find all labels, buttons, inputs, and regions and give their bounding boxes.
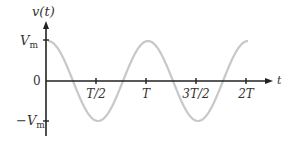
chart-canvas: v(t) Vm 0 −Vm T/2 T 3T/2 2T t xyxy=(0,0,286,142)
zero-label: 0 xyxy=(33,74,41,88)
x-tick-label-T: T xyxy=(142,87,151,101)
y-axis-label: v(t) xyxy=(32,4,55,19)
y-axis-arrow-icon xyxy=(43,21,49,29)
x-axis-label: t xyxy=(277,74,282,87)
neg-vm-label: −Vm xyxy=(16,113,45,130)
x-tick-label-half: T/2 xyxy=(86,87,106,101)
x-tick-label-3half: 3T/2 xyxy=(182,87,209,101)
x-tick-label-2T: 2T xyxy=(237,87,255,101)
x-axis-arrow-icon xyxy=(265,78,273,84)
vm-label: Vm xyxy=(20,33,38,50)
